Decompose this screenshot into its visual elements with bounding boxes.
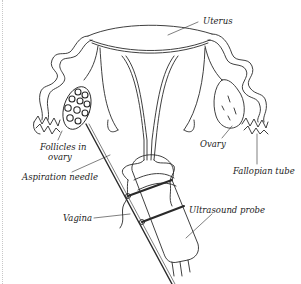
aspiration-needle xyxy=(86,124,172,284)
diagram-frame: Uterus Follicles in ovary Ovary Fallopia… xyxy=(0,0,301,284)
label-ultrasound-probe: Ultrasound probe xyxy=(189,205,265,215)
label-follicles-line1: Follicles in xyxy=(40,142,80,152)
label-follicles-line2: ovary xyxy=(40,152,80,162)
vagina-left-wall xyxy=(120,180,128,228)
left-fimbriae xyxy=(33,116,60,134)
right-uterine-wall xyxy=(184,48,205,130)
leader-probe xyxy=(186,214,212,238)
label-vagina: Vagina xyxy=(63,213,92,223)
leader-vagina xyxy=(94,214,130,218)
label-ovary: Ovary xyxy=(200,139,226,149)
uterine-cavity-top xyxy=(90,40,210,51)
right-ovary xyxy=(214,80,244,129)
label-fallopian-tube: Fallopian tube xyxy=(233,166,295,176)
vagina-right-wall xyxy=(170,182,172,206)
label-uterus: Uterus xyxy=(203,16,233,26)
needle-guide-clamp-1 xyxy=(128,180,172,196)
leader-uterus xyxy=(168,22,198,35)
label-aspiration-needle: Aspiration needle xyxy=(22,172,98,182)
uterus-fundus xyxy=(88,25,212,36)
cervical-canal-left xyxy=(122,56,144,160)
left-ovary xyxy=(58,83,96,133)
left-uterine-wall xyxy=(100,48,118,130)
